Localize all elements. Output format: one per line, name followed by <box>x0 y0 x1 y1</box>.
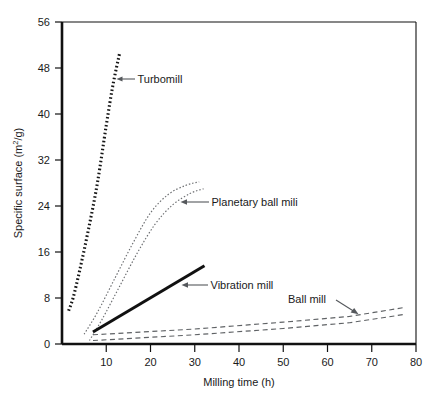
y-ticklabel-32: 32 <box>38 154 50 166</box>
x-ticklabel-20: 20 <box>144 356 156 368</box>
x-axis-title: Milling time (h) <box>203 376 275 388</box>
y-ticklabel-16: 16 <box>38 246 50 258</box>
x-ticklabel-70: 70 <box>366 356 378 368</box>
ball-mill-label: Ball mill <box>288 293 326 305</box>
y-ticklabel-56: 56 <box>38 16 50 28</box>
x-ticklabel-80: 80 <box>410 356 422 368</box>
specific-surface-line-chart: 0 8 16 24 32 40 48 56 10 20 30 40 50 60 <box>0 0 437 399</box>
x-ticklabel-30: 30 <box>189 356 201 368</box>
chart-figure: 0 8 16 24 32 40 48 56 10 20 30 40 50 60 <box>0 0 437 399</box>
x-ticklabel-50: 50 <box>277 356 289 368</box>
x-ticklabel-60: 60 <box>321 356 333 368</box>
vibration-mill-label: Vibration mill <box>211 279 274 291</box>
y-ticklabel-8: 8 <box>44 292 50 304</box>
turbomill-label: Turbomill <box>138 73 183 85</box>
y-ticklabel-24: 24 <box>38 200 50 212</box>
planetary-ball-mill-label: Planetary ball mili <box>212 196 298 208</box>
x-ticklabel-40: 40 <box>233 356 245 368</box>
y-ticklabel-40: 40 <box>38 108 50 120</box>
y-ticklabel-0: 0 <box>44 338 50 350</box>
x-ticklabel-10: 10 <box>100 356 112 368</box>
y-ticklabel-48: 48 <box>38 62 50 74</box>
